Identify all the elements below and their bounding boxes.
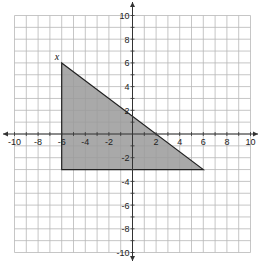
y-tick-label: -10 [116, 248, 129, 258]
y-tick-label: -2 [121, 153, 129, 163]
x-tick-label: 2 [154, 137, 159, 147]
x-tick-label: 4 [177, 137, 182, 147]
coordinate-plane: -10-8-6-4-2246810108642-2-4-6-8-10 x [0, 0, 261, 263]
x-tick-label: -2 [105, 137, 113, 147]
x-tick-label: 6 [201, 137, 206, 147]
x-tick-label: -6 [58, 137, 66, 147]
x-tick-label: 10 [245, 137, 255, 147]
y-tick-label: -6 [121, 201, 129, 211]
x-tick-label: -4 [81, 137, 89, 147]
y-tick-label: 10 [119, 11, 129, 21]
y-tick-label: 6 [124, 58, 129, 68]
x-tick-label: -10 [8, 137, 21, 147]
y-tick-label: -4 [121, 177, 129, 187]
x-tick-label: 8 [224, 137, 229, 147]
x-axis-right-arrow-icon [253, 132, 258, 137]
y-tick-label: 8 [124, 35, 129, 45]
x-axis-left-arrow-icon [3, 132, 8, 137]
vertex-label-x: x [54, 51, 60, 62]
y-tick-label: 2 [124, 106, 129, 116]
y-axis-up-arrow-icon [130, 2, 135, 7]
y-tick-label: 4 [124, 82, 129, 92]
y-axis-down-arrow-icon [130, 256, 135, 261]
y-tick-label: -8 [121, 224, 129, 234]
x-tick-label: -8 [34, 137, 42, 147]
